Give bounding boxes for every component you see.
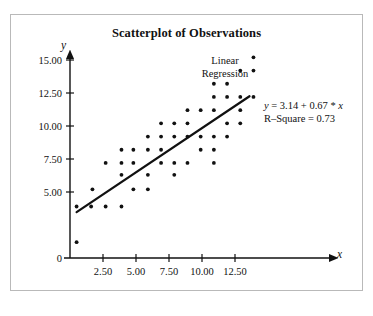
scatter-point	[91, 187, 95, 191]
r-square-text: R–Square = 0.73	[264, 112, 343, 125]
scatter-point	[252, 95, 256, 99]
scatter-point	[172, 121, 176, 125]
linear-regression-annotation: Linear Regression	[186, 55, 264, 80]
scatter-point	[238, 121, 242, 125]
x-axis-label: x	[337, 248, 342, 260]
scatter-point	[104, 205, 108, 209]
scatter-point	[199, 108, 203, 112]
scatter-point	[146, 148, 150, 152]
y-tick-label: 10.00	[18, 121, 62, 132]
scatter-point	[159, 148, 163, 152]
scatter-point	[120, 205, 124, 209]
x-tick-label: 10.00	[190, 266, 214, 277]
regression-annotation-line2: Regression	[202, 68, 249, 79]
y-tick-label: 7.50	[18, 154, 62, 165]
scatter-point	[120, 173, 124, 177]
scatter-point	[75, 205, 79, 209]
scatter-point	[212, 82, 216, 86]
scatter-point	[75, 240, 79, 244]
x-tick-label: 5.00	[127, 266, 145, 277]
equation-x-symbol: x	[338, 100, 343, 111]
regression-annotation-line1: Linear	[211, 55, 238, 66]
y-tick-label: 12.50	[18, 88, 62, 99]
scatter-point	[172, 135, 176, 139]
scatter-point	[172, 161, 176, 165]
scatter-point	[186, 108, 190, 112]
scatter-point	[186, 135, 190, 139]
scatter-point	[146, 135, 150, 139]
scatter-point	[225, 135, 229, 139]
scatter-point	[131, 161, 135, 165]
scatter-point	[172, 173, 176, 177]
axes-group	[64, 58, 330, 258]
scatter-point	[212, 148, 216, 152]
scatter-point	[186, 121, 190, 125]
scatter-point	[238, 108, 242, 112]
scatter-point	[131, 187, 135, 191]
scatter-point	[159, 121, 163, 125]
scatter-point	[159, 135, 163, 139]
x-tick-label: 7.50	[160, 266, 178, 277]
x-tick-label: 2.50	[94, 266, 112, 277]
scatter-point	[146, 187, 150, 191]
scatter-point	[212, 108, 216, 112]
scatter-point	[225, 82, 229, 86]
regression-line-segment	[77, 96, 250, 212]
y-tick-label: 0	[18, 253, 62, 264]
scatter-point	[120, 161, 124, 165]
scatter-point	[225, 95, 229, 99]
scatter-point	[238, 95, 242, 99]
scatter-point	[120, 148, 124, 152]
scatter-point	[225, 121, 229, 125]
regression-equation-annotation: y = 3.14 + 0.67 * x R–Square = 0.73	[264, 99, 343, 125]
scatter-point	[159, 161, 163, 165]
scatter-points	[75, 55, 256, 244]
scatter-point	[146, 173, 150, 177]
scatterplot-figure: Scatterplot of Observations y x 05.007.5…	[0, 0, 373, 316]
scatter-point	[89, 205, 93, 209]
y-tick-label: 5.00	[18, 187, 62, 198]
scatter-point	[199, 135, 203, 139]
scatter-point	[186, 161, 190, 165]
scatter-point	[212, 161, 216, 165]
scatter-point	[212, 135, 216, 139]
scatter-point	[212, 95, 216, 99]
y-axis-label: y	[61, 39, 66, 51]
y-tick-label: 15.00	[18, 55, 62, 66]
scatter-point	[131, 148, 135, 152]
scatter-point	[199, 148, 203, 152]
scatter-point	[104, 161, 108, 165]
regression-equation-line: y = 3.14 + 0.67 * x	[264, 99, 343, 112]
equation-body: = 3.14 + 0.67 *	[269, 100, 339, 111]
x-tick-label: 12.50	[223, 266, 247, 277]
regression-line	[77, 96, 250, 212]
